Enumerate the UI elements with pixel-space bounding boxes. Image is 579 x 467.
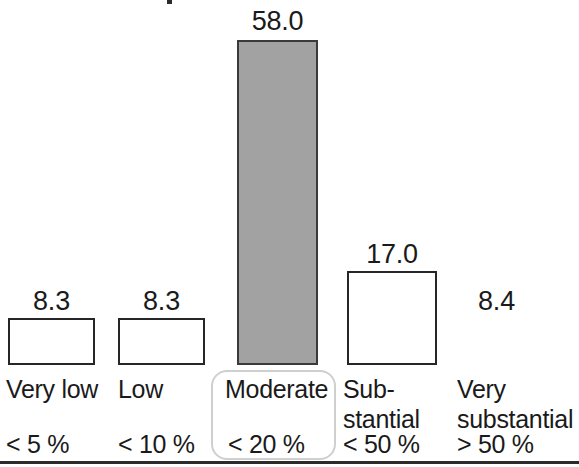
- bar-very-low: [8, 318, 95, 365]
- value-label-very-low: 8.3: [8, 288, 95, 315]
- clipped-title-artifact: [167, 0, 172, 4]
- tick-label-moderate: < 20 %: [228, 430, 305, 458]
- bar-low: [118, 318, 205, 365]
- tick-label-very-substantial: > 50 %: [457, 430, 534, 458]
- value-label-low: 8.3: [118, 288, 205, 315]
- category-label-substantial: Sub- stantial: [343, 374, 420, 434]
- bar-moderate: [237, 40, 318, 365]
- category-label-very-substantial: Very substantial: [457, 374, 573, 434]
- value-label-moderate: 58.0: [232, 8, 323, 35]
- category-label-very-low: Very low: [6, 374, 98, 404]
- category-label-moderate: Moderate: [225, 374, 328, 404]
- x-axis-line: [0, 461, 579, 464]
- bar-substantial: [347, 271, 437, 365]
- category-label-low: Low: [118, 374, 163, 404]
- bar-chart: 8.3 8.3 58.0 17.0 8.4 Very low Low Moder…: [0, 0, 579, 467]
- tick-label-low: < 10 %: [118, 430, 195, 458]
- tick-label-very-low: < 5 %: [6, 430, 69, 458]
- tick-label-substantial: < 50 %: [343, 430, 420, 458]
- value-label-substantial: 17.0: [347, 241, 437, 268]
- value-label-very-substantial: 8.4: [453, 288, 540, 315]
